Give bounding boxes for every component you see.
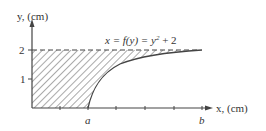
equation-label: x = f(y) = y2 + 2 (104, 34, 177, 47)
y-tick-label-1: 1 (20, 73, 26, 85)
x-axis-label: x, (cm) (216, 102, 248, 115)
x-axis-arrow-icon (205, 106, 213, 111)
diagram: y, (cm) x, (cm) 2 1 a b x = f(y) = y2 + … (0, 0, 266, 131)
x-marker-a: a (85, 114, 91, 126)
y-tick-label-2: 2 (19, 44, 25, 56)
y-axis-label: y, (cm) (17, 10, 48, 23)
x-marker-b: b (199, 114, 205, 126)
hatched-region (32, 50, 207, 108)
